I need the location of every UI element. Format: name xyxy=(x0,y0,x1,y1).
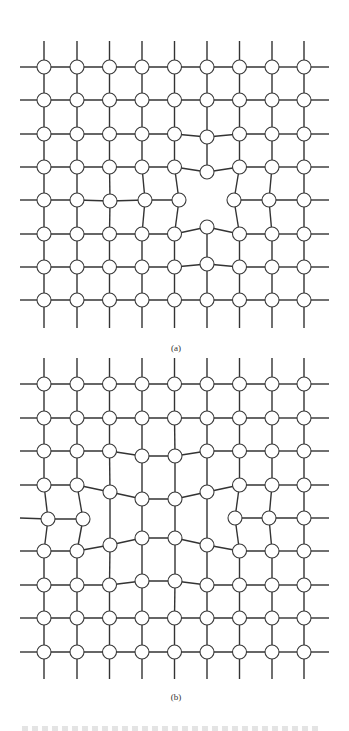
lattice-atom-circle xyxy=(265,227,279,241)
lattice-atom-circle xyxy=(168,411,182,425)
panel-a-single-vacancy-lattice xyxy=(20,41,329,328)
lattice-atom-circle xyxy=(262,511,276,525)
lattice-atom-circle xyxy=(200,485,214,499)
lattice-atom-circle xyxy=(103,293,117,307)
lattice-atom-circle xyxy=(297,260,311,274)
lattice-atom-circle xyxy=(70,127,84,141)
lattice-atom-circle xyxy=(168,127,182,141)
lattice-atom-circle xyxy=(70,160,84,174)
lattice-atom-circle xyxy=(297,645,311,659)
lattice-atom-circle xyxy=(297,544,311,558)
lattice-atom-circle xyxy=(37,444,51,458)
lattice-atom-circle xyxy=(103,611,117,625)
lattice-atom-circle xyxy=(70,411,84,425)
lattice-atom-circle xyxy=(70,578,84,592)
lattice-atom-circle xyxy=(297,93,311,107)
lattice-atom-circle xyxy=(265,611,279,625)
lattice-atom-circle xyxy=(265,377,279,391)
lattice-atom-circle xyxy=(297,193,311,207)
lattice-atom-circle xyxy=(41,512,55,526)
lattice-atom-circle xyxy=(70,60,84,74)
lattice-atom-circle xyxy=(200,444,214,458)
lattice-atom-circle xyxy=(103,485,117,499)
lattice-atom-circle xyxy=(233,227,247,241)
lattice-atom-circle xyxy=(168,645,182,659)
lattice-atom-circle xyxy=(103,127,117,141)
lattice-atom-circle xyxy=(297,578,311,592)
lattice-atom-circle xyxy=(135,60,149,74)
lattice-atom-circle xyxy=(168,611,182,625)
lattice-atom-circle xyxy=(135,611,149,625)
lattice-atom-circle xyxy=(37,93,51,107)
lattice-atom-circle xyxy=(37,60,51,74)
lattice-atom-circle xyxy=(37,478,51,492)
lattice-atom-circle xyxy=(200,60,214,74)
lattice-atom-circle xyxy=(70,93,84,107)
lattice-atom-circle xyxy=(135,411,149,425)
lattice-atom-circle xyxy=(103,160,117,174)
lattice-atom-circle xyxy=(265,645,279,659)
lattice-atom-circle xyxy=(265,127,279,141)
lattice-atom-circle xyxy=(135,93,149,107)
lattice-atom-circle xyxy=(172,193,186,207)
lattice-atoms xyxy=(37,377,311,659)
lattice-atom-circle xyxy=(37,193,51,207)
lattice-atom-circle xyxy=(265,260,279,274)
lattice-atom-circle xyxy=(37,578,51,592)
lattice-atom-circle xyxy=(200,293,214,307)
lattice-atom-circle xyxy=(265,578,279,592)
lattice-atom-circle xyxy=(297,444,311,458)
lattice-atom-circle xyxy=(138,193,152,207)
lattice-atom-circle xyxy=(297,227,311,241)
lattice-atom-circle xyxy=(168,160,182,174)
lattice-atom-circle xyxy=(265,160,279,174)
lattice-atom-circle xyxy=(135,531,149,545)
lattice-atom-circle xyxy=(233,127,247,141)
lattice-atom-circle xyxy=(233,93,247,107)
lattice-atom-circle xyxy=(103,645,117,659)
lattice-atom-circle xyxy=(200,377,214,391)
lattice-atom-circle xyxy=(103,538,117,552)
lattice-atom-circle xyxy=(70,544,84,558)
lattice-atom-circle xyxy=(135,293,149,307)
lattice-atom-circle xyxy=(70,444,84,458)
lattice-atom-circle xyxy=(103,60,117,74)
lattice-atom-circle xyxy=(70,377,84,391)
panel-b-label: (b) xyxy=(146,692,206,702)
lattice-atom-circle xyxy=(265,544,279,558)
lattice-atom-circle xyxy=(37,227,51,241)
lattice-atom-circle xyxy=(265,411,279,425)
lattice-atom-circle xyxy=(168,227,182,241)
lattice-atom-circle xyxy=(200,411,214,425)
lattice-atom-circle xyxy=(200,165,214,179)
lattice-atom-circle xyxy=(135,492,149,506)
lattice-atom-circle xyxy=(70,227,84,241)
lattice-atom-circle xyxy=(168,492,182,506)
lattice-atom-circle xyxy=(37,127,51,141)
lattice-atom-circle xyxy=(37,160,51,174)
lattice-atom-circle xyxy=(297,377,311,391)
lattice-atom-circle xyxy=(168,260,182,274)
lattice-atom-circle xyxy=(200,578,214,592)
lattice-atom-circle xyxy=(168,377,182,391)
lattice-atom-circle xyxy=(103,578,117,592)
lattice-atom-circle xyxy=(233,611,247,625)
lattice-atom-circle xyxy=(135,160,149,174)
lattice-atom-circle xyxy=(103,444,117,458)
lattice-atom-circle xyxy=(135,377,149,391)
lattice-atom-circle xyxy=(37,293,51,307)
lattice-atom-circle xyxy=(233,645,247,659)
lattice-atom-circle xyxy=(37,611,51,625)
lattice-atom-circle xyxy=(200,257,214,271)
lattice-atom-circle xyxy=(70,293,84,307)
lattice-atom-circle xyxy=(168,93,182,107)
lattice-atom-circle xyxy=(168,293,182,307)
lattice-atom-circle xyxy=(103,93,117,107)
lattice-atom-circle xyxy=(37,645,51,659)
lattice-atom-circle xyxy=(103,377,117,391)
lattice-atom-circle xyxy=(297,611,311,625)
lattice-atom-circle xyxy=(200,538,214,552)
lattice-atom-circle xyxy=(265,93,279,107)
lattice-atom-circle xyxy=(262,193,276,207)
lattice-atom-circle xyxy=(233,411,247,425)
